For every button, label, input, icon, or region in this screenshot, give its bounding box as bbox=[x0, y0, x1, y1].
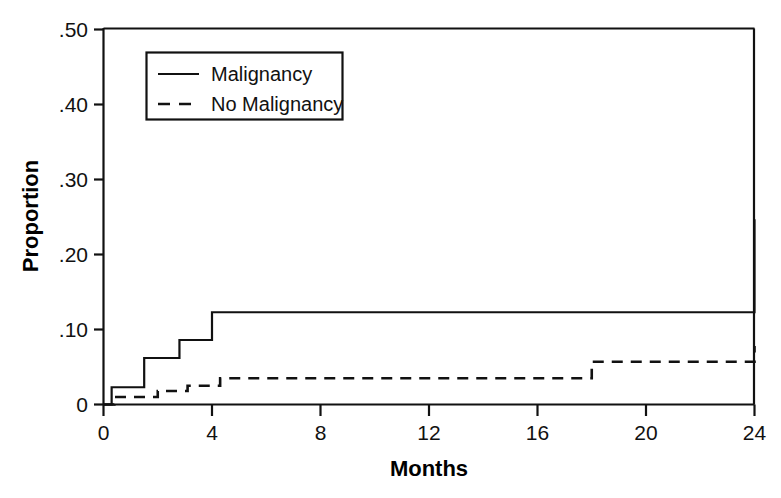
legend-label-malignancy: Malignancy bbox=[211, 63, 312, 85]
x-tick-label-20: 20 bbox=[634, 421, 657, 444]
y-tick-label-10: .10 bbox=[59, 318, 88, 341]
y-axis-ticks bbox=[94, 30, 104, 405]
y-tick-label-20: .20 bbox=[59, 243, 88, 266]
series-group bbox=[104, 219, 755, 404]
chart-container: 0 .10 .20 .30 .40 .50 0 4 8 12 16 20 24 … bbox=[0, 0, 781, 498]
legend-label-no-malignancy: No Malignancy bbox=[211, 93, 343, 115]
x-tick-label-0: 0 bbox=[98, 421, 110, 444]
x-tick-label-16: 16 bbox=[526, 421, 549, 444]
x-axis-title: Months bbox=[390, 456, 468, 481]
y-tick-label-40: .40 bbox=[59, 93, 88, 116]
y-axis-title: Proportion bbox=[18, 160, 43, 272]
series-line-malignancy bbox=[104, 219, 755, 404]
kaplan-meier-step-plot: 0 .10 .20 .30 .40 .50 0 4 8 12 16 20 24 … bbox=[0, 0, 781, 498]
x-axis-tick-labels: 0 4 8 12 16 20 24 bbox=[98, 421, 767, 444]
y-tick-label-0: 0 bbox=[76, 393, 88, 416]
x-tick-label-8: 8 bbox=[315, 421, 327, 444]
y-axis-tick-labels: 0 .10 .20 .30 .40 .50 bbox=[59, 18, 88, 416]
x-tick-label-24: 24 bbox=[743, 421, 767, 444]
y-tick-label-50: .50 bbox=[59, 18, 88, 41]
x-tick-label-4: 4 bbox=[206, 421, 218, 444]
x-axis-ticks bbox=[104, 405, 755, 417]
legend: Malignancy No Malignancy bbox=[147, 53, 344, 120]
x-tick-label-12: 12 bbox=[417, 421, 440, 444]
y-tick-label-30: .30 bbox=[59, 168, 88, 191]
series-line-no-malignancy bbox=[104, 346, 755, 405]
